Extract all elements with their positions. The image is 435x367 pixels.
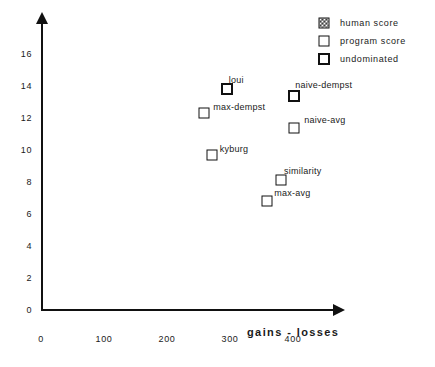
x-tick-label: 100 xyxy=(89,334,119,344)
legend-label: human score xyxy=(340,18,399,28)
legend-marker-icon xyxy=(316,50,332,68)
legend-item[interactable]: undominated xyxy=(316,50,434,68)
data-point-marker[interactable] xyxy=(276,175,287,186)
y-tick-label: 6 xyxy=(10,209,32,219)
y-tick-label: 0 xyxy=(10,305,32,315)
data-point-marker[interactable] xyxy=(199,108,210,119)
legend-item[interactable]: human score xyxy=(316,14,434,32)
data-point-marker[interactable] xyxy=(206,149,217,160)
x-axis-title: gains - losses xyxy=(247,326,339,338)
data-point-marker[interactable] xyxy=(262,196,273,207)
y-tick-label: 12 xyxy=(10,113,32,123)
data-point-marker[interactable] xyxy=(288,90,300,102)
data-point-label: max-avg xyxy=(274,188,310,198)
x-axis-line xyxy=(41,309,335,311)
x-tick-label: 0 xyxy=(26,334,56,344)
legend: human scoreprogram scoreundominated xyxy=(316,14,434,68)
y-axis-line xyxy=(41,22,43,311)
y-tick-label: 14 xyxy=(10,81,32,91)
data-point-label: naive-avg xyxy=(304,115,345,125)
y-tick-label: 8 xyxy=(10,177,32,187)
y-tick-label: 4 xyxy=(10,241,32,251)
data-point-label: naive-dempst xyxy=(295,80,352,90)
x-tick-label: 200 xyxy=(152,334,182,344)
legend-marker-icon xyxy=(316,32,332,50)
y-axis-arrow-icon xyxy=(36,12,48,24)
y-tick-label: 2 xyxy=(10,273,32,283)
y-tick-label: 10 xyxy=(10,145,32,155)
scatter-plot-figure: 0246810121416 0100200300400 louimax-demp… xyxy=(0,0,435,367)
data-point-label: similarity xyxy=(284,166,322,176)
x-axis-arrow-icon xyxy=(333,304,345,316)
data-point-label: kyburg xyxy=(220,144,249,154)
x-tick-label: 300 xyxy=(215,334,245,344)
legend-item[interactable]: program score xyxy=(316,32,434,50)
legend-marker-icon xyxy=(316,14,332,32)
y-tick-label: 16 xyxy=(10,49,32,59)
data-point-label: max-dempst xyxy=(213,102,265,112)
legend-label: undominated xyxy=(340,54,399,64)
data-point-label: loui xyxy=(229,75,244,85)
legend-label: program score xyxy=(340,36,406,46)
data-point-marker[interactable] xyxy=(289,122,300,133)
